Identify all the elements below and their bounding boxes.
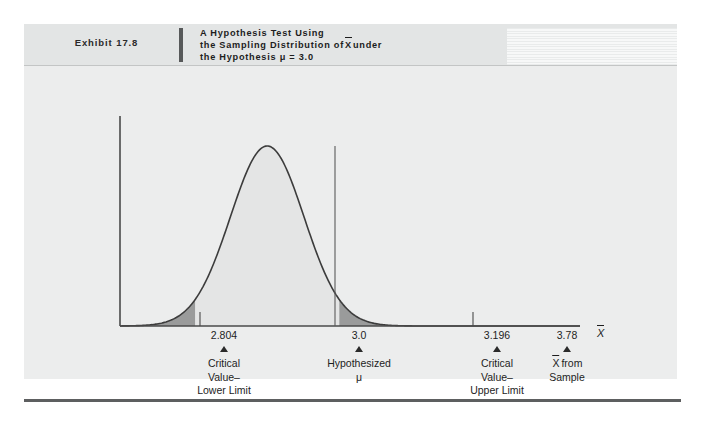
- exhibit-number-label: Exhibit 17.8: [34, 37, 179, 48]
- x-bar-symbol: X: [344, 39, 353, 51]
- marker-hypothesized-mean: [355, 346, 363, 352]
- exhibit-figure: Exhibit 17.8 A Hypothesis Test Using the…: [24, 24, 677, 379]
- caption-sample-mean: X from Sample: [549, 357, 585, 384]
- title-line-2: the Sampling Distribution ofXunder: [200, 39, 382, 51]
- tick-value-lower-critical: 2.804: [211, 329, 237, 341]
- normal-distribution-chart: [24, 65, 677, 379]
- bottom-rule: [24, 399, 681, 402]
- header-divider: [179, 28, 183, 62]
- title-line-2-suffix: under: [353, 40, 382, 50]
- normal-curve: [120, 146, 580, 326]
- x-axis-label: X: [596, 327, 605, 339]
- header-decorative-hatch: [507, 28, 677, 65]
- plot-area: 2.804 3.0 3.196 3.78 X Critical Value– L…: [24, 65, 677, 379]
- caption-lower-critical: Critical Value– Lower Limit: [197, 357, 251, 398]
- caption-upper-critical: Critical Value– Upper Limit: [470, 357, 524, 398]
- marker-upper-critical: [493, 346, 501, 352]
- title-line-1: A Hypothesis Test Using: [200, 27, 382, 39]
- exhibit-title: A Hypothesis Test Using the Sampling Dis…: [200, 27, 382, 63]
- acceptance-region-fill: [120, 146, 580, 326]
- exhibit-header: Exhibit 17.8 A Hypothesis Test Using the…: [24, 24, 677, 65]
- marker-lower-critical: [220, 346, 228, 352]
- title-line-2-prefix: the Sampling Distribution of: [200, 40, 344, 50]
- tick-value-upper-critical: 3.196: [484, 329, 510, 341]
- tick-value-sample-mean: 3.78: [557, 329, 577, 341]
- caption-sample-mean-line1: X from: [549, 357, 585, 371]
- tick-value-hypothesized-mean: 3.0: [352, 329, 367, 341]
- marker-sample-mean: [563, 346, 571, 352]
- caption-hypothesized-mean: Hypothesized μ: [327, 357, 391, 384]
- title-line-3: the Hypothesis μ = 3.0: [200, 51, 382, 63]
